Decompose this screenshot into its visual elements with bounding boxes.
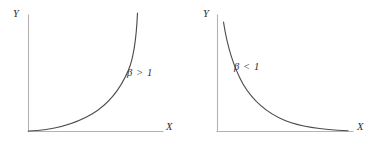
panel-beta-less-than-one: Y X β < 1 — [189, 0, 378, 149]
plot-area-right — [189, 0, 378, 149]
x-axis-label: X — [166, 122, 173, 133]
y-axis-label: Y — [13, 9, 19, 20]
curve-exponential-decay — [224, 22, 349, 131]
x-axis-label: X — [357, 122, 364, 133]
y-axis-label: Y — [203, 9, 209, 20]
curve-annotation-beta-greater-than-one: β > 1 — [127, 68, 153, 79]
figure-container: Y X β > 1 Y X β < 1 — [0, 0, 378, 149]
panel-beta-greater-than-one: Y X β > 1 — [0, 0, 189, 149]
curve-annotation-beta-less-than-one: β < 1 — [234, 62, 260, 73]
curve-exponential-growth — [29, 13, 138, 131]
plot-area-left — [0, 0, 189, 149]
